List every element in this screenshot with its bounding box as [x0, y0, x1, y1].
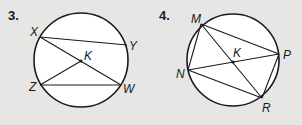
point-label-m: M: [191, 12, 201, 26]
point-label-k: K: [84, 49, 93, 63]
geometry-figures: 3. X Y K Z W 4. M P K N R: [0, 0, 302, 125]
point-label-w: W: [123, 82, 136, 96]
point-label-k: K: [233, 46, 242, 60]
point-label-r: R: [262, 101, 271, 115]
point-label-n: N: [176, 67, 185, 81]
problem-3: 3. X Y K Z W: [8, 8, 138, 107]
point-label-z: Z: [28, 80, 37, 94]
point-label-x: X: [29, 25, 39, 39]
point-label-y: Y: [129, 39, 138, 53]
problem-number: 4.: [159, 8, 170, 23]
circle: [187, 14, 279, 106]
center-point: [231, 60, 234, 63]
problem-4: 4. M P K N R: [159, 8, 291, 115]
center-point: [79, 59, 82, 62]
problem-number: 3.: [8, 8, 19, 23]
point-label-p: P: [283, 48, 291, 62]
